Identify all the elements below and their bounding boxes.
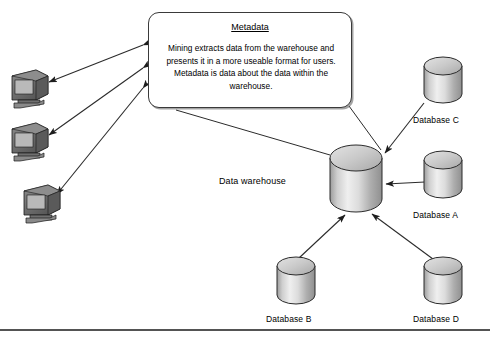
db-a-label: Database A xyxy=(413,210,458,220)
connector-db-b-to-warehouse xyxy=(299,215,345,258)
metadata-title: Metadata xyxy=(149,22,351,32)
connector-db-a-to-warehouse xyxy=(386,182,425,184)
connector-box-to-client-1 xyxy=(49,45,143,82)
connector-db-d-to-warehouse xyxy=(372,214,437,262)
db-d-cylinder xyxy=(424,257,462,304)
desktop-computer-icon xyxy=(12,123,48,161)
connector-box-to-client-3 xyxy=(57,88,143,194)
db-c-label: Database C xyxy=(413,115,459,125)
warehouse-label: Data warehouse xyxy=(219,176,286,186)
desktop-computer-icon xyxy=(24,185,60,223)
db-a-cylinder xyxy=(424,151,462,198)
metadata-callout: Metadata Mining extracts data from the w… xyxy=(148,12,352,108)
diagram-canvas: Metadata Mining extracts data from the w… xyxy=(0,0,490,337)
metadata-body: Mining extracts data from the warehouse … xyxy=(156,42,346,92)
db-b-label: Database B xyxy=(266,314,311,324)
db-c-cylinder xyxy=(424,57,462,103)
desktop-computer-icon xyxy=(12,70,48,108)
db-b-cylinder xyxy=(277,257,315,304)
db-d-label: Database D xyxy=(413,314,459,324)
connector-db-c-to-warehouse xyxy=(385,103,424,153)
warehouse-cylinder xyxy=(330,145,382,212)
connector-box-to-client-2 xyxy=(49,68,143,135)
